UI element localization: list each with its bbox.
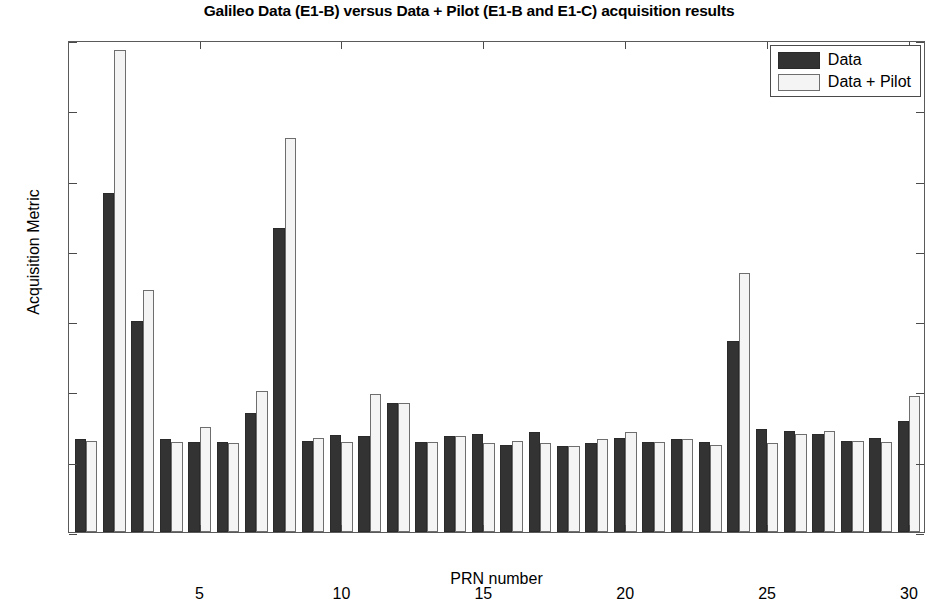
bar-prn-17-data	[529, 432, 540, 532]
y-tick-mark	[69, 183, 77, 184]
bar-prn-19-data	[585, 443, 596, 532]
bar-prn-15-data	[472, 434, 483, 532]
bar-prn-8-data-pilot	[285, 138, 296, 532]
bar-prn-27-data-pilot	[824, 431, 835, 532]
bar-prn-29-data-pilot	[881, 442, 892, 532]
bar-prn-10-data-pilot	[341, 442, 352, 532]
x-tick-mark	[483, 525, 484, 532]
bar-prn-20-data-pilot	[625, 432, 636, 532]
chart-figure: Galileo Data (E1-B) versus Data + Pilot …	[0, 0, 938, 599]
bar-prn-18-data-pilot	[568, 446, 579, 532]
y-axis-label: Acquisition Metric	[25, 132, 43, 372]
bar-prn-15-data-pilot	[483, 443, 494, 532]
legend-swatch-pilot	[778, 74, 820, 91]
bar-prn-5-data-pilot	[200, 427, 211, 532]
y-tick-mark	[916, 112, 924, 113]
bar-prn-29-data	[869, 438, 880, 532]
x-tick-mark	[200, 42, 201, 49]
bar-prn-28-data-pilot	[852, 441, 863, 532]
bar-prn-30-data	[898, 421, 909, 532]
y-tick-mark	[916, 393, 924, 394]
bar-prn-24-data	[727, 341, 738, 532]
y-tick-mark	[69, 534, 77, 535]
x-tick-mark	[341, 42, 342, 49]
plot-area: 05101520253035 51015202530 DataData + Pi…	[68, 41, 925, 533]
bar-prn-13-data	[415, 442, 426, 532]
bar-prn-12-data-pilot	[398, 403, 409, 532]
y-tick-mark	[69, 464, 77, 465]
bar-prn-16-data	[500, 445, 511, 532]
legend-label: Data	[828, 51, 862, 69]
bar-prn-19-data-pilot	[597, 439, 608, 532]
y-tick-mark	[916, 323, 924, 324]
bar-prn-22-data-pilot	[682, 439, 693, 532]
bar-prn-21-data	[642, 442, 653, 532]
chart-title: Galileo Data (E1-B) versus Data + Pilot …	[0, 2, 938, 20]
bar-prn-24-data-pilot	[739, 273, 750, 532]
chart-legend: DataData + Pilot	[770, 45, 921, 97]
bar-prn-3-data-pilot	[143, 290, 154, 532]
x-tick-mark	[767, 525, 768, 532]
bar-prn-1-data-pilot	[86, 441, 97, 532]
bar-prn-23-data-pilot	[710, 445, 721, 532]
bar-prn-10-data	[330, 435, 341, 532]
bar-prn-9-data	[302, 441, 313, 532]
legend-swatch-data	[778, 52, 820, 69]
bar-prn-26-data	[784, 431, 795, 532]
y-tick-mark	[69, 323, 77, 324]
y-tick-mark	[916, 534, 924, 535]
x-tick-mark	[341, 525, 342, 532]
bar-prn-11-data-pilot	[370, 394, 381, 532]
bar-prn-3-data	[131, 321, 142, 532]
x-tick-mark	[625, 525, 626, 532]
bar-prn-2-data-pilot	[114, 50, 125, 532]
bar-prn-5-data	[188, 442, 199, 532]
bar-prn-2-data	[103, 193, 114, 532]
bar-prn-21-data-pilot	[654, 442, 665, 532]
x-tick-mark	[767, 42, 768, 49]
bar-prn-28-data	[841, 441, 852, 532]
bar-prn-13-data-pilot	[427, 442, 438, 532]
bar-prn-18-data	[557, 446, 568, 532]
bar-prn-26-data-pilot	[795, 434, 806, 532]
bar-prn-27-data	[812, 434, 823, 532]
x-tick-mark	[909, 525, 910, 532]
x-tick-mark	[625, 42, 626, 49]
bar-prn-17-data-pilot	[540, 443, 551, 532]
legend-item-pilot: Data + Pilot	[778, 73, 911, 91]
y-tick-mark	[69, 112, 77, 113]
bar-prn-14-data	[444, 436, 455, 532]
bar-prn-16-data-pilot	[512, 441, 523, 532]
y-tick-mark	[916, 253, 924, 254]
bar-prn-6-data	[217, 442, 228, 532]
bar-prn-25-data-pilot	[767, 443, 778, 532]
bar-prn-7-data	[245, 413, 256, 532]
legend-label: Data + Pilot	[828, 73, 911, 91]
bar-prn-11-data	[358, 436, 369, 532]
x-tick-mark	[483, 42, 484, 49]
bar-prn-4-data	[160, 439, 171, 532]
y-tick-mark	[916, 42, 924, 43]
bar-prn-12-data	[387, 403, 398, 532]
bar-prn-25-data	[756, 429, 767, 532]
bar-prn-1-data	[75, 439, 86, 532]
legend-item-data: Data	[778, 51, 911, 69]
bar-prn-22-data	[671, 439, 682, 532]
bar-prn-6-data-pilot	[228, 443, 239, 532]
y-tick-mark	[69, 253, 77, 254]
bar-prn-14-data-pilot	[455, 436, 466, 532]
x-tick-mark	[200, 525, 201, 532]
bar-prn-20-data	[614, 438, 625, 532]
y-tick-mark	[916, 464, 924, 465]
bar-prn-8-data	[273, 228, 284, 532]
bar-prn-4-data-pilot	[171, 442, 182, 532]
bar-prn-23-data	[699, 442, 710, 532]
bar-prn-9-data-pilot	[313, 438, 324, 532]
y-tick-mark	[916, 183, 924, 184]
bar-prn-7-data-pilot	[256, 391, 267, 532]
x-axis-label: PRN number	[68, 570, 925, 588]
y-tick-mark	[69, 393, 77, 394]
y-tick-mark	[69, 42, 77, 43]
